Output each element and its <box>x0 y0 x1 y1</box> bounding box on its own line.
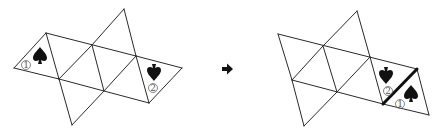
svg-text:1: 1 <box>23 60 29 70</box>
edge <box>92 9 124 45</box>
edge <box>417 69 429 115</box>
face-2-label: 2 <box>384 86 393 96</box>
face-1-label: 1 <box>22 60 31 70</box>
edge <box>14 68 59 79</box>
edge <box>124 9 136 56</box>
edge <box>383 104 429 115</box>
edge <box>59 79 72 125</box>
edge <box>72 91 104 125</box>
edge <box>370 57 383 104</box>
net-after: 2 1 <box>278 11 429 126</box>
edge <box>136 56 149 103</box>
edge <box>104 56 136 91</box>
face-2-label: 2 <box>149 83 158 93</box>
spade-icon <box>404 85 418 102</box>
spade-icon <box>147 64 161 81</box>
svg-text:2: 2 <box>150 83 156 93</box>
edge <box>357 11 370 57</box>
edge <box>323 11 357 46</box>
edge <box>292 80 304 126</box>
edge <box>46 33 59 79</box>
edge <box>92 45 104 91</box>
face-1-label: 1 <box>396 99 405 109</box>
svg-text:1: 1 <box>397 99 403 109</box>
edge <box>278 34 417 69</box>
svg-text:2: 2 <box>385 86 391 96</box>
spade-icon <box>379 67 393 84</box>
edge <box>136 56 182 68</box>
octahedron-net-diagram: 1 2 <box>0 0 439 136</box>
spade-icon <box>33 47 47 64</box>
net-before: 1 2 <box>14 9 182 125</box>
edge <box>304 92 337 126</box>
edge <box>323 46 337 92</box>
edge <box>292 46 323 80</box>
edge <box>337 57 370 92</box>
edge <box>278 34 292 80</box>
edge <box>46 33 136 56</box>
arrow-right-icon <box>222 64 233 75</box>
edge <box>59 45 92 79</box>
